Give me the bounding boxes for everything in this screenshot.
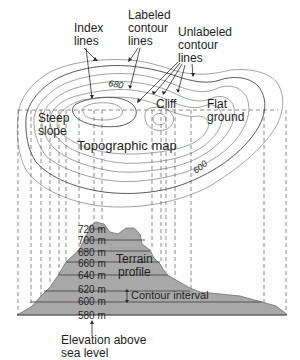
- elevation-caption-line: Elevation above: [61, 333, 147, 347]
- topographic-diagram: 680 600 720 m 700 m 680 m: [0, 0, 300, 360]
- contour-label-680: 680: [108, 78, 125, 90]
- arrow-head-icon: [191, 73, 195, 77]
- contour-line: [42, 81, 235, 172]
- contour-line: [153, 113, 166, 124]
- flat-ground-label: Flat ground: [207, 97, 244, 124]
- flat-ground-label-line: Flat: [207, 97, 228, 111]
- contour-line: [83, 103, 123, 120]
- unlabeled-contour-label-line: Unlabeled: [178, 25, 232, 39]
- flat-ground-label-line: ground: [207, 110, 244, 124]
- elevation-label: 580 m: [78, 310, 106, 321]
- elevation-label: 680 m: [78, 247, 106, 258]
- index-contour-line: [73, 97, 137, 127]
- arrow-head-icon: [128, 85, 132, 89]
- index-lines-label-line: lines: [74, 34, 99, 48]
- unlabeled-contour-lines-label: Unlabeled contour lines: [178, 25, 235, 65]
- elevation-label: 640 m: [78, 270, 106, 281]
- steep-slope-label-line: Steep: [38, 111, 70, 125]
- elevation-label: 600 m: [78, 296, 106, 307]
- topographic-map-label: Topographic map: [77, 138, 177, 153]
- arrow-head-icon: [176, 89, 180, 93]
- terrain-profile-label-line: Terrain: [116, 252, 153, 266]
- elevation-labels: 720 m 700 m 680 m 660 m 640 m 620 m 600 …: [78, 224, 106, 321]
- elevation-label: 620 m: [78, 284, 106, 295]
- labeled-contour-arrow: [130, 48, 138, 60]
- elevation-label: 660 m: [78, 258, 106, 269]
- labeled-contour-label-line: Labeled: [128, 8, 171, 22]
- terrain-profile-label-line: profile: [118, 265, 151, 279]
- elevation-label: 700 m: [78, 235, 106, 246]
- terrain-profile-shape: [17, 222, 287, 315]
- terrain-profile-label: Terrain profile: [116, 252, 156, 279]
- cliff-label: Cliff: [156, 97, 177, 111]
- unlabeled-contour-label-line: contour: [178, 38, 218, 52]
- steep-slope-label-line: slope: [38, 124, 67, 138]
- index-lines-arrow: [84, 48, 96, 60]
- elevation-caption-line: sea level: [61, 346, 108, 360]
- steep-slope-label: Steep slope: [38, 111, 73, 138]
- contour-interval-label: Contour interval: [131, 289, 209, 301]
- index-lines-label: Index lines: [74, 21, 107, 48]
- unlabeled-contour-label-line: lines: [178, 51, 203, 65]
- labeled-contour-lines-label: Labeled contour lines: [128, 8, 174, 48]
- labeled-contour-label-line: lines: [128, 34, 153, 48]
- contour-label-600: 600: [191, 158, 209, 175]
- elevation-caption: Elevation above sea level: [61, 333, 150, 360]
- index-lines-label-line: Index: [74, 21, 103, 35]
- labeled-contour-label-line: contour: [128, 21, 168, 35]
- elevation-label: 720 m: [78, 224, 106, 235]
